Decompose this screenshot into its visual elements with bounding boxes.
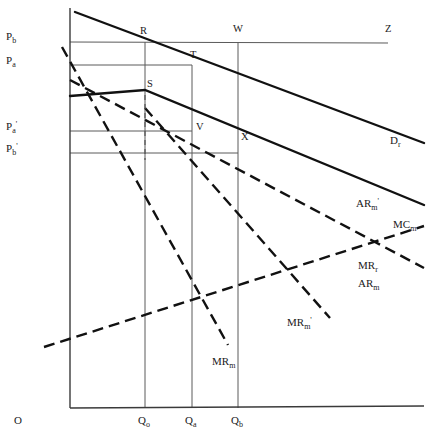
point-label-v: V [196,121,204,132]
point-label-z: Z [385,23,391,34]
curve-label-mrm: MRm [212,355,236,370]
curve-labels: Dr ARm' MCm MRr ARm MRm' M [212,134,417,370]
diagram-canvas: Pb Pa Pa' Pb' O Qo Qa Qb [0,0,428,433]
curve-label-arm: ARm [358,277,380,292]
point-label-w: W [233,23,243,34]
curve-dr [75,12,424,143]
point-label-x: X [241,131,249,142]
curve-label-arm-prime: ARm' [356,197,380,212]
price-label-pb-prime: Pb' [6,142,18,157]
curve-label-mrr: MRr [358,259,378,274]
price-guide-lines [70,42,388,153]
price-label-pa: Pa [6,54,16,69]
price-axis-labels: Pb Pa Pa' Pb' [6,30,18,157]
quantity-label-qb: Qb [231,414,243,429]
curve-mrr-arm [70,80,424,268]
curve-label-mcm: MCm [393,218,417,233]
point-label-t: T [190,49,197,60]
economics-diagram-figure: Pb Pa Pa' Pb' O Qo Qa Qb [0,0,428,433]
quantity-axis-labels: Qo Qa Qb [138,414,243,429]
point-label-s: S [147,78,153,89]
price-label-pb: Pb [6,30,16,45]
point-label-r: R [140,25,147,36]
curve-label-dr: Dr [390,134,401,149]
origin-label: O [14,414,22,426]
quantity-label-qa: Qa [185,414,197,429]
price-line-pb [70,42,388,43]
quantity-label-qo: Qo [138,414,150,429]
quantity-axis [70,406,424,408]
price-label-pa-prime: Pa' [6,120,18,135]
curve-label-mrm-prime: MRm' [287,316,312,331]
